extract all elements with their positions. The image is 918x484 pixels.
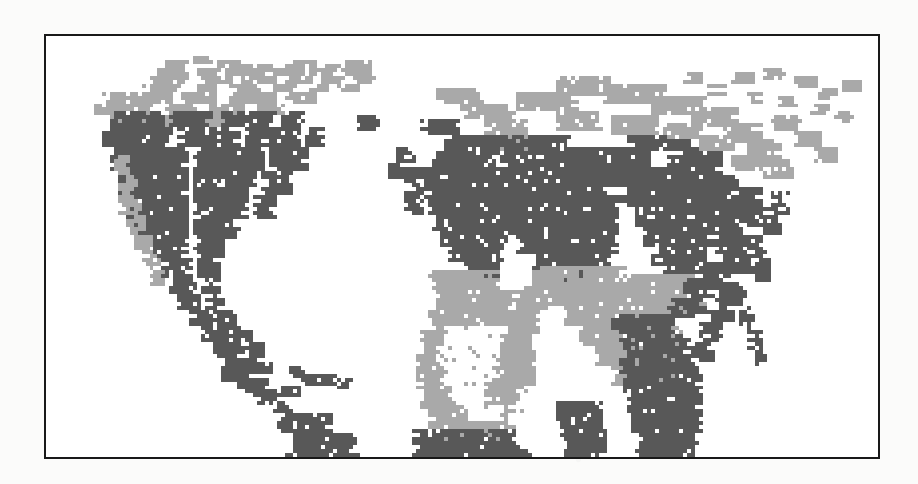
figure-alt-text: Grayscale raster world map inside a thin… xyxy=(0,0,1,1)
world-map-raster-canvas xyxy=(46,36,878,457)
map-frame-border xyxy=(44,34,880,459)
figure-root: Grayscale raster world map inside a thin… xyxy=(0,0,918,484)
